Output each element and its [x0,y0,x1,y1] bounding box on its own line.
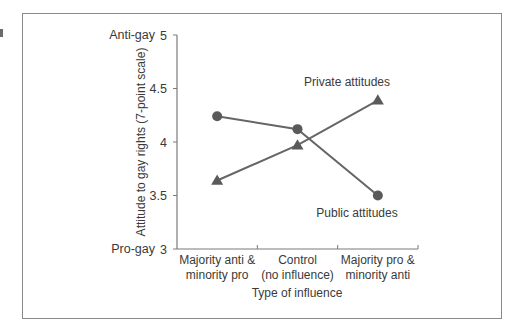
x-category-label: Majority anti &minority pro [179,253,255,282]
x-axis-ticks: Majority anti &minority proControl(no in… [179,245,418,282]
circle-marker-icon [293,124,303,134]
circle-marker-icon [212,111,222,121]
y-tick-label: 5 [160,29,167,43]
data-series [211,94,384,200]
y-extreme-top-label: Anti-gay [109,28,156,42]
x-category-line: Control [278,253,317,267]
x-category-label: Control(no influence) [261,253,334,282]
triangle-marker-icon [292,139,304,149]
public-attitudes-label: Public attitudes [316,206,397,220]
y-tick-label: 4.5 [150,82,167,96]
x-category-line: Majority anti & [179,253,255,267]
y-tick-label: 3.5 [150,189,167,203]
triangle-marker-icon [372,94,384,104]
y-extreme-bottom-label: Pro-gay [111,242,156,256]
x-category-line: (no influence) [261,268,334,282]
x-category-line: Majority pro & [341,253,415,267]
x-category-label: Majority pro &minority anti [341,253,415,282]
y-axis-ticks: 33.544.55 [150,29,177,257]
x-category-line: minority pro [186,268,249,282]
line-chart: 33.544.55 Majority anti &minority proCon… [0,0,519,336]
y-axis-title: Attitude to gay rights (7-point scale) [134,48,148,237]
private-attitudes-label: Private attitudes [304,75,390,89]
circle-marker-icon [373,191,383,201]
x-axis-title: Type of influence [252,286,343,300]
y-tick-label: 4 [160,136,167,150]
y-tick-label: 3 [160,243,167,257]
x-category-line: minority anti [345,268,410,282]
